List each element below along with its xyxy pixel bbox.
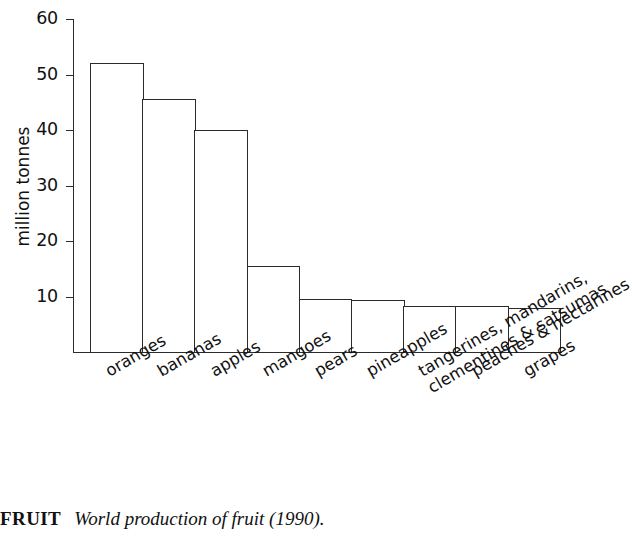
y-tick-mark xyxy=(66,130,74,131)
bar-bananas xyxy=(142,99,196,352)
y-tick-mark xyxy=(66,297,74,298)
y-tick-mark xyxy=(66,19,74,20)
caption-text: World production of fruit (1990). xyxy=(74,508,324,529)
caption-keyword: FRUIT xyxy=(0,508,61,529)
y-tick-label: 50 xyxy=(22,66,58,84)
y-tick-label: 10 xyxy=(22,288,58,306)
chart-plot-area: 605040302010 million tonnes orangesbanan… xyxy=(0,0,578,500)
y-tick-mark xyxy=(66,186,74,187)
bar-oranges xyxy=(90,63,144,352)
y-axis-title: million tonnes xyxy=(15,112,32,262)
figure-caption: FRUITWorld production of fruit (1990). xyxy=(0,508,578,530)
y-tick-label: 60 xyxy=(22,10,58,28)
bar-apples xyxy=(194,130,248,352)
y-tick-mark xyxy=(66,241,74,242)
y-tick-mark xyxy=(66,75,74,76)
